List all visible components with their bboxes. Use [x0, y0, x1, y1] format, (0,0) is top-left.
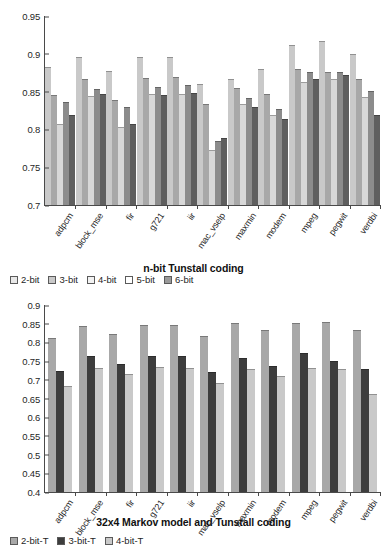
legend-label: 6-bit [175, 274, 193, 285]
x-axis-label: verdbi [358, 211, 380, 236]
y-axis-tick-label: 0.75 [22, 162, 45, 173]
plot-area-bottom: 0.90.850.80.750.70.650.60.550.50.450.4ad… [44, 305, 380, 493]
bar [109, 334, 117, 492]
bar [247, 369, 255, 492]
bar [231, 323, 239, 492]
x-axis-tick [228, 492, 229, 496]
y-axis-tick-label: 0.95 [22, 11, 45, 22]
bar-group [197, 16, 227, 205]
x-axis-label: iir [185, 498, 197, 509]
x-axis-tick [258, 492, 259, 496]
bar-group [319, 16, 349, 205]
legend-top: 2-bit3-bit4-bit5-bit6-bit [10, 274, 193, 285]
legend-label: 4-bit-T [116, 535, 143, 546]
legend-item[interactable]: 2-bit-T [10, 535, 48, 546]
legend-label: 2-bit-T [21, 535, 48, 546]
x-axis-tick [197, 492, 198, 496]
x-axis-label: fir [124, 211, 136, 222]
legend-item[interactable]: 2-bit [10, 274, 39, 285]
x-axis-label: mpeg [298, 211, 319, 235]
legend-label: 2-bit [21, 274, 39, 285]
bars-top [45, 16, 380, 205]
y-axis-tick-label: 0.9 [27, 48, 45, 59]
legend-label: 5-bit [136, 274, 154, 285]
bar-group [45, 305, 75, 492]
bar-group [45, 16, 75, 205]
bar-group [289, 16, 319, 205]
bar-group [136, 16, 166, 205]
bar [125, 374, 133, 492]
x-axis-tick [258, 205, 259, 209]
bar [330, 361, 338, 492]
y-axis-tick-label: 0.5 [27, 449, 45, 460]
bar-group [350, 16, 380, 205]
bar [239, 358, 247, 492]
x-axis-label: fir [124, 498, 136, 509]
legend-swatch-icon [48, 276, 56, 284]
bar [200, 336, 208, 492]
legend-item[interactable]: 3-bit [48, 274, 77, 285]
x-axis-tick [380, 205, 381, 209]
y-axis-tick-label: 0.75 [22, 356, 45, 367]
bar-group [167, 16, 197, 205]
x-axis-label: pegwit [327, 211, 349, 237]
bar [252, 107, 258, 205]
bar [282, 119, 288, 205]
x-axis-label: maxmin [232, 211, 258, 242]
y-axis-tick-label: 0.7 [27, 374, 45, 385]
x-axis-label: iir [185, 211, 197, 222]
bar [216, 383, 224, 492]
x-axis-tick [350, 205, 351, 209]
legend-item[interactable]: 4-bit [87, 274, 116, 285]
legend-item[interactable]: 3-bit-T [57, 535, 95, 546]
legend-swatch-icon [87, 276, 95, 284]
bar [308, 368, 316, 492]
bar-group [319, 305, 349, 492]
y-axis-tick-label: 0.4 [27, 487, 45, 498]
bar [100, 94, 106, 205]
chart-title-top: n-bit Tunstall coding [0, 262, 387, 274]
x-axis-tick [319, 492, 320, 496]
bar [269, 366, 277, 492]
legend-item[interactable]: 6-bit [164, 274, 193, 285]
plot-area-top: 0.950.90.850.80.750.7adpcmblock_msefirg7… [44, 16, 380, 206]
legend-item[interactable]: 4-bit-T [105, 535, 143, 546]
bar-group [228, 305, 258, 492]
x-axis-tick [228, 205, 229, 209]
x-axis-tick [289, 205, 290, 209]
x-axis-tick [136, 205, 137, 209]
bar-group [167, 305, 197, 492]
bar [343, 75, 349, 205]
bar-group [258, 305, 288, 492]
x-axis-tick [106, 205, 107, 209]
bar [156, 367, 164, 492]
bar [178, 356, 186, 492]
bar [56, 371, 64, 492]
x-axis-tick [167, 205, 168, 209]
x-axis-label: adpcm [52, 211, 75, 238]
bar-group [75, 16, 105, 205]
y-axis-tick-label: 0.55 [22, 430, 45, 441]
bar-group [106, 305, 136, 492]
bar-group [106, 16, 136, 205]
x-axis-label: mac_vselp [196, 211, 228, 251]
x-axis-tick [380, 492, 381, 496]
bar [140, 325, 148, 492]
bar-group [258, 16, 288, 205]
y-axis-tick-label: 0.7 [27, 200, 45, 211]
x-axis-tick [319, 205, 320, 209]
bar [130, 124, 136, 205]
bar [69, 115, 75, 205]
bar [95, 368, 103, 492]
bar [261, 330, 269, 492]
bar-group [350, 305, 380, 492]
bar [191, 93, 197, 205]
bar [64, 386, 72, 492]
legend-swatch-icon [10, 276, 18, 284]
legend-bottom: 2-bit-T3-bit-T4-bit-T [10, 535, 143, 546]
legend-item[interactable]: 5-bit [125, 274, 154, 285]
legend-label: 3-bit-T [68, 535, 95, 546]
bar [338, 369, 346, 492]
y-axis-tick-label: 0.8 [27, 337, 45, 348]
x-axis-label: g721 [147, 211, 166, 232]
